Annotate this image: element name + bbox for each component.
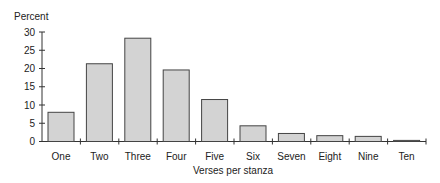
bar-seven (278, 133, 304, 141)
y-tick-label: 0 (29, 136, 35, 147)
x-tick-label: Three (125, 151, 152, 162)
y-axis-title: Percent (14, 11, 49, 22)
bars (48, 38, 420, 141)
x-tick-label: Eight (318, 151, 341, 162)
x-axis-title: Verses per stanza (193, 165, 273, 176)
y-tick-label: 30 (24, 27, 36, 38)
x-tick-label: Nine (358, 151, 379, 162)
x-tick-label: Six (246, 151, 260, 162)
bar-two (86, 64, 112, 142)
x-tick-label: Ten (399, 151, 415, 162)
y-tick-label: 5 (29, 118, 35, 129)
y-tick-label: 25 (24, 45, 36, 56)
y-tick-label: 20 (24, 63, 36, 74)
bar-one (48, 112, 74, 141)
x-axis: OneTwoThreeFourFiveSixSevenEightNineTen (42, 139, 426, 163)
bar-chart: Percent 051015202530 OneTwoThreeFourFive… (0, 0, 440, 183)
x-tick-label: Seven (277, 151, 305, 162)
bar-eight (317, 136, 343, 142)
bar-nine (355, 136, 381, 141)
x-tick-label: One (52, 151, 71, 162)
y-tick-label: 15 (24, 81, 36, 92)
x-tick-label: Two (90, 151, 109, 162)
bar-six (240, 126, 266, 142)
x-tick-label: Four (166, 151, 187, 162)
bar-ten (394, 140, 420, 141)
bar-five (202, 100, 228, 142)
bar-three (125, 38, 151, 141)
y-axis: 051015202530 (24, 27, 45, 148)
x-tick-label: Five (205, 151, 224, 162)
y-tick-label: 10 (24, 100, 36, 111)
bar-four (163, 70, 189, 142)
